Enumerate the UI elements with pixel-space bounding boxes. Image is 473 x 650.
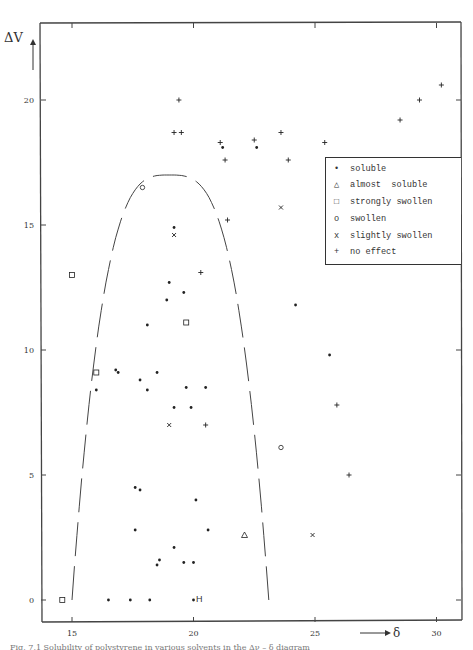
soluble-point xyxy=(190,406,193,409)
boundary-curve xyxy=(72,175,269,600)
x-tick-label: 30 xyxy=(431,629,441,638)
no-effect-point xyxy=(347,473,352,478)
soluble-point xyxy=(255,146,258,149)
no-effect-point xyxy=(198,270,203,275)
y-tick-label: 15 xyxy=(24,221,34,230)
no-effect-point xyxy=(398,118,403,123)
triangle-icon: △ xyxy=(334,179,350,192)
slightly-swollen-point xyxy=(279,206,283,210)
soluble-point xyxy=(165,299,168,302)
legend-item-slightly-swollen: x slightly swollen xyxy=(334,230,433,243)
plus-icon: + xyxy=(334,246,350,259)
no-effect-point xyxy=(417,98,422,103)
soluble-point xyxy=(156,564,159,567)
legend: • soluble △ almost soluble □ strongly sw… xyxy=(325,157,461,265)
x-axis-label: δ xyxy=(360,626,400,640)
soluble-point xyxy=(148,599,151,602)
no-effect-point xyxy=(286,158,291,163)
soluble-point xyxy=(146,389,149,392)
no-effect-point xyxy=(439,83,444,88)
x-axis-symbol: δ xyxy=(393,626,400,640)
soluble-point xyxy=(158,559,161,562)
y-axis-label: ΔV xyxy=(4,30,23,45)
soluble-point xyxy=(192,599,195,602)
y-tick-label: 20 xyxy=(24,96,34,105)
no-effect-point xyxy=(176,98,181,103)
x-tick-label: 20 xyxy=(188,629,198,638)
dot-icon: • xyxy=(334,163,350,176)
soluble-point xyxy=(204,386,207,389)
soluble-point xyxy=(294,304,297,307)
no-effect-point xyxy=(218,140,223,145)
soluble-point xyxy=(168,281,171,284)
soluble-point xyxy=(173,226,176,229)
y-tick-label: 10 xyxy=(24,346,34,355)
strongly-swollen-point xyxy=(70,273,75,278)
y-axis-arrow xyxy=(30,39,36,70)
strongly-swollen-point xyxy=(60,598,65,603)
no-effect-point xyxy=(203,423,208,428)
swollen-point xyxy=(279,445,283,449)
x-icon: x xyxy=(334,230,350,243)
x-tick-label: 25 xyxy=(310,629,320,638)
soluble-point xyxy=(134,486,137,489)
no-effect-point xyxy=(334,403,339,408)
soluble-point xyxy=(129,599,132,602)
legend-item-almost-soluble: △ almost soluble xyxy=(334,179,427,192)
soluble-point xyxy=(117,371,120,374)
soluble-point xyxy=(221,146,224,149)
no-effect-point xyxy=(225,218,230,223)
y-tick-label: 5 xyxy=(29,471,34,480)
legend-item-soluble: • soluble xyxy=(334,163,386,176)
no-effect-point xyxy=(179,130,184,135)
soluble-point xyxy=(182,291,185,294)
soluble-point xyxy=(134,529,137,532)
soluble-point xyxy=(173,406,176,409)
figure-caption: Fig. 7.1 Solubility of polystyrene in va… xyxy=(10,641,310,650)
no-effect-point xyxy=(172,130,177,135)
soluble-point xyxy=(95,389,98,392)
x-tick-label: 15 xyxy=(67,629,77,638)
soluble-point xyxy=(185,386,188,389)
almost-soluble-point xyxy=(242,532,248,538)
strongly-swollen-point xyxy=(184,320,189,325)
soluble-point xyxy=(207,529,210,532)
swollen-point xyxy=(140,185,144,189)
annotation-h: H xyxy=(196,594,203,604)
scatter-plot: 0510152015202530 H δ xyxy=(0,0,473,650)
soluble-point xyxy=(146,324,149,327)
soluble-point xyxy=(156,371,159,374)
soluble-point xyxy=(139,379,142,382)
soluble-point xyxy=(173,546,176,549)
legend-item-no-effect: + no effect xyxy=(334,246,396,259)
soluble-point xyxy=(195,499,198,502)
legend-item-strongly-swollen: □ strongly swollen xyxy=(334,196,433,209)
soluble-point xyxy=(328,354,331,357)
square-icon: □ xyxy=(334,196,350,209)
y-tick-label: 0 xyxy=(29,596,34,605)
no-effect-point xyxy=(322,140,327,145)
soluble-point xyxy=(114,369,117,372)
soluble-point xyxy=(192,561,195,564)
no-effect-point xyxy=(223,158,228,163)
slightly-swollen-point xyxy=(172,233,176,237)
no-effect-point xyxy=(278,130,283,135)
circle-icon: o xyxy=(334,213,350,226)
soluble-point xyxy=(107,599,110,602)
slightly-swollen-point xyxy=(311,533,315,537)
strongly-swollen-point xyxy=(94,370,99,375)
soluble-point xyxy=(182,561,185,564)
no-effect-point xyxy=(252,138,257,143)
legend-item-swollen: o swollen xyxy=(334,213,386,226)
plot-frame xyxy=(40,22,462,622)
axis-ticks xyxy=(41,23,461,622)
soluble-point xyxy=(139,489,142,492)
slightly-swollen-point xyxy=(167,423,171,427)
